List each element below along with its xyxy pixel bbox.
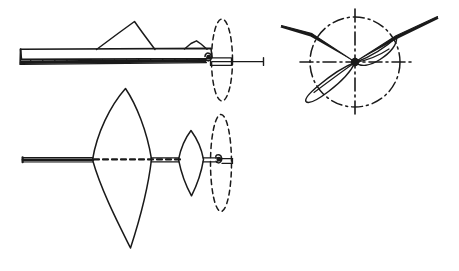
plan-view-hub [216, 155, 222, 163]
small-blade-planform [179, 131, 204, 196]
end-view-rotor [281, 9, 439, 117]
plan-view [23, 89, 233, 249]
blade-upper-right [355, 17, 439, 66]
blade-upper-left [281, 26, 356, 63]
large-blade-planform [93, 89, 152, 249]
technical-drawing-canvas: Propeller assembly engineering line draw… [0, 0, 459, 271]
large-blade-profile [97, 22, 156, 50]
blade-lower-left [306, 63, 355, 103]
end-view-hub [351, 58, 359, 66]
side-view-disc-of-rotation [212, 19, 233, 101]
plan-view-shaft [23, 157, 233, 163]
drawing-svg: Propeller assembly engineering line draw… [0, 0, 459, 271]
side-elevation-view [20, 19, 263, 101]
side-view-shaft-stub [211, 58, 264, 66]
shaft-bar [20, 48, 212, 64]
